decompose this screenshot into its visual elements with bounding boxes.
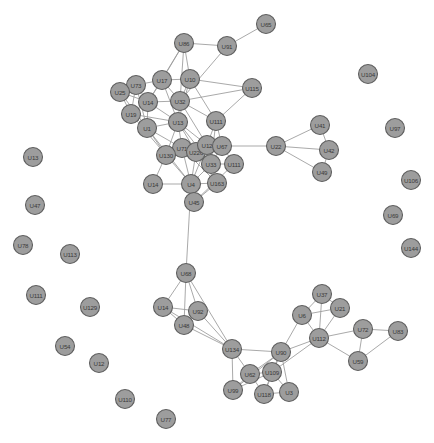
graph-node-circle[interactable]	[157, 410, 176, 429]
graph-node[interactable]: U67	[213, 137, 232, 156]
graph-node-circle[interactable]	[182, 175, 201, 194]
graph-node[interactable]: U115	[243, 79, 262, 98]
graph-node[interactable]: U104	[359, 65, 378, 84]
graph-node-circle[interactable]	[189, 302, 208, 321]
graph-node-circle[interactable]	[153, 71, 172, 90]
graph-node-circle[interactable]	[218, 37, 237, 56]
graph-node[interactable]: U83	[389, 322, 408, 341]
graph-node-circle[interactable]	[169, 113, 188, 132]
graph-node[interactable]: U1	[138, 119, 157, 138]
graph-node[interactable]: U21	[331, 299, 350, 318]
graph-node[interactable]: U72	[354, 320, 373, 339]
graph-node-circle[interactable]	[225, 155, 244, 174]
graph-node-circle[interactable]	[213, 137, 232, 156]
graph-node-circle[interactable]	[81, 298, 100, 317]
graph-node-circle[interactable]	[384, 206, 403, 225]
graph-node[interactable]: U10	[181, 70, 200, 89]
graph-node-circle[interactable]	[293, 306, 312, 325]
graph-node-circle[interactable]	[241, 365, 260, 384]
graph-node[interactable]: U90	[272, 343, 291, 362]
graph-node-circle[interactable]	[354, 320, 373, 339]
graph-node-circle[interactable]	[311, 116, 330, 135]
graph-node[interactable]: U42	[320, 141, 339, 160]
graph-node-circle[interactable]	[386, 119, 405, 138]
graph-node[interactable]: U33	[202, 155, 221, 174]
graph-node[interactable]: U109	[263, 363, 282, 382]
graph-node[interactable]: U111	[207, 112, 226, 131]
graph-node[interactable]: U49	[313, 163, 332, 182]
graph-node-circle[interactable]	[359, 65, 378, 84]
graph-node[interactable]: U65	[257, 15, 276, 34]
graph-node-circle[interactable]	[402, 171, 421, 190]
graph-node-circle[interactable]	[26, 196, 45, 215]
graph-node-circle[interactable]	[223, 340, 242, 359]
graph-node-circle[interactable]	[255, 385, 274, 404]
graph-node-circle[interactable]	[349, 352, 368, 371]
graph-node[interactable]: U4	[182, 175, 201, 194]
graph-node-circle[interactable]	[310, 329, 329, 348]
graph-node-circle[interactable]	[122, 105, 141, 124]
graph-node-circle[interactable]	[144, 175, 163, 194]
graph-node-circle[interactable]	[171, 92, 190, 111]
graph-node[interactable]: U25	[111, 83, 130, 102]
graph-node[interactable]: U37	[313, 285, 332, 304]
graph-node[interactable]: U19	[122, 105, 141, 124]
graph-node[interactable]: U13	[24, 148, 43, 167]
graph-node-circle[interactable]	[263, 363, 282, 382]
graph-node-circle[interactable]	[138, 119, 157, 138]
graph-node[interactable]: U59	[349, 352, 368, 371]
graph-node[interactable]: U32	[171, 92, 190, 111]
graph-node[interactable]: U97	[386, 119, 405, 138]
graph-node[interactable]: U86	[175, 34, 194, 53]
graph-node[interactable]: U6	[293, 306, 312, 325]
graph-node-circle[interactable]	[267, 137, 286, 156]
graph-node[interactable]: U130	[157, 146, 176, 165]
graph-node[interactable]: U14	[144, 175, 163, 194]
graph-node-circle[interactable]	[90, 354, 109, 373]
graph-node-circle[interactable]	[280, 383, 299, 402]
graph-node[interactable]: U12	[90, 354, 109, 373]
graph-node[interactable]: U118	[255, 385, 274, 404]
graph-node-circle[interactable]	[320, 141, 339, 160]
graph-node-circle[interactable]	[185, 193, 204, 212]
graph-node-circle[interactable]	[157, 146, 176, 165]
graph-node-circle[interactable]	[243, 79, 262, 98]
graph-node-circle[interactable]	[111, 83, 130, 102]
graph-node-circle[interactable]	[139, 93, 158, 112]
graph-node[interactable]: U22	[267, 137, 286, 156]
graph-node-circle[interactable]	[56, 337, 75, 356]
graph-node-circle[interactable]	[402, 239, 421, 258]
graph-node[interactable]: U17	[153, 71, 172, 90]
graph-node[interactable]: U62	[241, 365, 260, 384]
graph-node[interactable]: U163	[208, 174, 227, 193]
graph-node[interactable]: U112	[310, 329, 329, 348]
graph-node[interactable]: U111	[27, 286, 46, 305]
graph-node[interactable]: U3	[280, 383, 299, 402]
graph-node[interactable]: U41	[311, 116, 330, 135]
graph-node-circle[interactable]	[14, 236, 33, 255]
graph-node[interactable]: U68	[177, 264, 196, 283]
graph-node-circle[interactable]	[24, 148, 43, 167]
graph-node-circle[interactable]	[208, 174, 227, 193]
graph-node[interactable]: U99	[224, 381, 243, 400]
graph-node-circle[interactable]	[389, 322, 408, 341]
graph-node[interactable]: U111	[225, 155, 244, 174]
graph-node-circle[interactable]	[207, 112, 226, 131]
graph-node-circle[interactable]	[181, 70, 200, 89]
graph-node[interactable]: U69	[384, 206, 403, 225]
graph-node[interactable]: U134	[223, 340, 242, 359]
graph-node[interactable]: U106	[402, 171, 421, 190]
graph-node[interactable]: U91	[218, 37, 237, 56]
graph-node[interactable]: U92	[189, 302, 208, 321]
graph-node-circle[interactable]	[331, 299, 350, 318]
graph-node[interactable]: U47	[26, 196, 45, 215]
graph-node[interactable]: U54	[56, 337, 75, 356]
graph-node-circle[interactable]	[313, 163, 332, 182]
graph-node[interactable]: U129	[81, 298, 100, 317]
graph-node-circle[interactable]	[154, 298, 173, 317]
graph-node[interactable]: U144	[402, 239, 421, 258]
graph-node[interactable]: U45	[185, 193, 204, 212]
graph-node-circle[interactable]	[257, 15, 276, 34]
graph-node-circle[interactable]	[224, 381, 243, 400]
graph-node-circle[interactable]	[116, 390, 135, 409]
